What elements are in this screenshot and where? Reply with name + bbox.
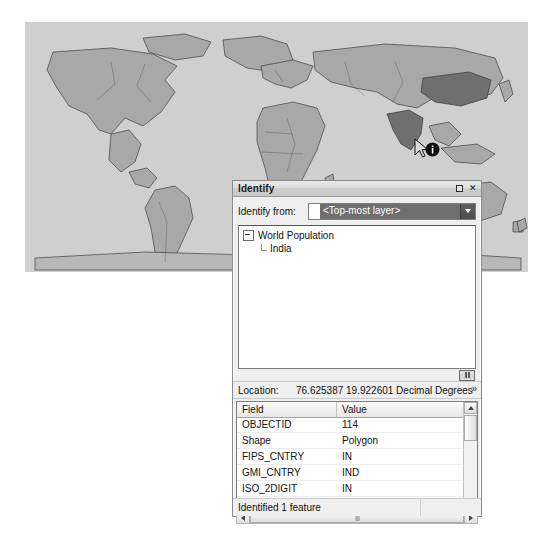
resize-grip-icon[interactable] xyxy=(459,370,475,381)
tree-item-layer[interactable]: World Population xyxy=(243,229,475,242)
location-value: 76.625387 19.922601 Decimal Degrees xyxy=(296,385,473,396)
cell-field: FIPS_CNTRY xyxy=(237,449,337,464)
identify-window-title: Identify xyxy=(238,181,274,196)
restore-button[interactable] xyxy=(453,183,465,194)
restore-icon xyxy=(456,185,463,192)
location-label: Location: xyxy=(238,385,296,396)
collapse-icon[interactable] xyxy=(243,230,254,241)
table-row[interactable]: FIPS_CNTRYIN xyxy=(237,449,477,465)
identify-from-label: Identify from: xyxy=(238,206,308,217)
cell-value: IN xyxy=(337,481,477,496)
location-bar: Location: 76.625387 19.922601 Decimal De… xyxy=(233,381,481,399)
identify-from-value: <Top-most layer> xyxy=(320,204,460,219)
cell-value: Polygon xyxy=(337,433,477,448)
identify-body: Identify from: <Top-most layer> World Po… xyxy=(233,197,481,381)
table-row[interactable]: ISO_2DIGITIN xyxy=(237,481,477,497)
close-button[interactable]: ✕ xyxy=(467,183,479,194)
location-options-icon[interactable]: » xyxy=(471,383,477,394)
cell-value: IND xyxy=(337,465,477,480)
table-row[interactable]: ShapePolygon xyxy=(237,433,477,449)
table-row[interactable]: OBJECTID114 xyxy=(237,417,477,433)
attributes-table[interactable]: Field Value OBJECTID114ShapePolygonFIPS_… xyxy=(236,401,478,511)
table-vertical-scrollbar[interactable] xyxy=(463,402,477,510)
status-text: Identified 1 feature xyxy=(233,502,420,513)
identify-window[interactable]: Identify ✕ Identify from: <Top-most laye… xyxy=(232,180,482,517)
tree-elbow-icon xyxy=(258,244,267,253)
cell-field: ISO_2DIGIT xyxy=(237,481,337,496)
caret-shape xyxy=(465,209,471,213)
screen: Identify ✕ Identify from: <Top-most laye… xyxy=(0,0,556,544)
cell-value: IN xyxy=(337,449,477,464)
table-row[interactable]: GMI_CNTRYIND xyxy=(237,465,477,481)
combo-icon-slot xyxy=(309,204,320,219)
cell-value: 114 xyxy=(337,417,477,432)
splitter-row[interactable] xyxy=(238,369,476,381)
column-header-value[interactable]: Value xyxy=(337,402,477,417)
tree-item-feature[interactable]: India xyxy=(243,242,475,255)
tree-item-layer-label: World Population xyxy=(258,230,334,241)
cell-field: Shape xyxy=(237,433,337,448)
vertical-scroll-thumb[interactable] xyxy=(464,415,477,441)
identify-from-combobox[interactable]: <Top-most layer> xyxy=(308,203,476,220)
arrow-up-icon xyxy=(468,406,474,410)
cell-field: GMI_CNTRY xyxy=(237,465,337,480)
identify-titlebar[interactable]: Identify ✕ xyxy=(233,181,481,197)
identify-statusbar: Identified 1 feature xyxy=(233,498,481,516)
tree-item-feature-label: India xyxy=(270,243,292,254)
attributes-table-header: Field Value xyxy=(237,402,477,418)
attributes-table-body: OBJECTID114ShapePolygonFIPS_CNTRYINGMI_C… xyxy=(237,417,477,510)
cell-field: OBJECTID xyxy=(237,417,337,432)
scroll-up-button[interactable] xyxy=(464,402,477,414)
identify-from-row: Identify from: <Top-most layer> xyxy=(238,203,476,219)
column-header-field[interactable]: Field xyxy=(237,402,337,417)
identify-results-tree[interactable]: World Population India xyxy=(238,225,476,369)
chevron-down-icon[interactable] xyxy=(460,204,475,219)
status-cell xyxy=(420,499,481,516)
